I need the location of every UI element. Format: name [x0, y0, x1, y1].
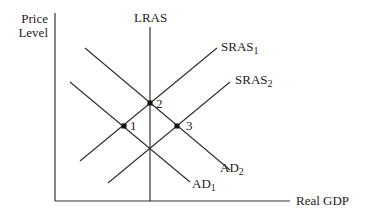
y-axis-label-line2: Level [4, 26, 48, 40]
lras-label: LRAS [134, 11, 167, 25]
point-1-label: 1 [130, 119, 137, 133]
ad2-label: AD2 [220, 161, 244, 179]
equilibrium-point-2 [148, 101, 153, 106]
sras2-curve [108, 82, 230, 183]
y-axis-label: Price Level [4, 12, 48, 40]
x-axis-label: Real GDP [296, 194, 349, 208]
point-3-label: 3 [186, 119, 193, 133]
equilibrium-point-1 [122, 124, 127, 129]
sras2-label: SRAS2 [235, 73, 273, 91]
diagram-canvas [0, 0, 368, 217]
point-2-label: 2 [156, 97, 163, 111]
ad1-label: AD1 [192, 177, 216, 195]
y-axis-label-line1: Price [4, 12, 48, 26]
sras1-label: SRAS1 [221, 40, 259, 58]
equilibrium-point-3 [175, 124, 180, 129]
